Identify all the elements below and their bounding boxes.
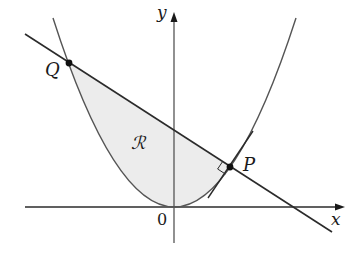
point-p-label: P (243, 156, 255, 174)
origin-label: 0 (157, 212, 167, 228)
point-q-dot (66, 60, 73, 67)
y-axis-label: y (157, 4, 167, 21)
point-q-label: Q (45, 61, 60, 79)
region-r-shading (69, 63, 230, 207)
diagram: y x 0 Q P ℛ (0, 0, 364, 259)
x-axis-label: x (331, 211, 341, 228)
y-axis-arrow-icon (171, 12, 178, 22)
point-p-dot (227, 164, 234, 171)
region-r-label: ℛ (131, 134, 145, 152)
diagram-canvas (0, 0, 364, 259)
